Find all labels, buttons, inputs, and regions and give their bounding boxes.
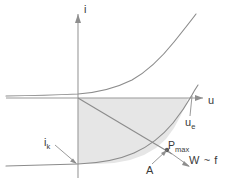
iv-characteristic-figure: i u ik ue Pmax A W ~ f <box>0 0 235 182</box>
voltage-axis-arrowhead <box>195 95 203 101</box>
ik-subscript: k <box>46 142 50 151</box>
short-circuit-current-label: ik <box>44 137 50 151</box>
ue-subscript: e <box>191 122 195 131</box>
current-axis-arrowhead <box>75 14 81 23</box>
dark-diode-curve <box>6 14 196 96</box>
max-power-point-label: Pmax <box>168 140 189 154</box>
area-label: A <box>146 165 153 176</box>
current-axis-label: i <box>84 4 86 15</box>
voltage-axis-label: u <box>208 95 214 106</box>
energy-relation-label: W ~ f <box>189 155 218 166</box>
pmax-subscript: max <box>175 145 189 154</box>
pmax-base: P <box>168 139 175 151</box>
open-circuit-voltage-label: ue <box>185 117 195 131</box>
